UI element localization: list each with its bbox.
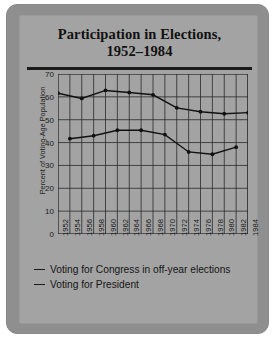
data-point bbox=[80, 97, 84, 101]
x-tick-label: 1972 bbox=[180, 219, 189, 236]
x-tick-label: 1974 bbox=[192, 219, 201, 236]
legend-item-congress: Voting for Congress in off-year election… bbox=[34, 262, 259, 277]
chart-svg bbox=[58, 74, 248, 234]
data-point bbox=[222, 112, 226, 116]
x-tick-label: 1984 bbox=[251, 219, 260, 236]
data-point bbox=[58, 91, 60, 95]
data-point bbox=[151, 93, 155, 97]
legend-item-president: Voting for President bbox=[34, 277, 259, 292]
chart-title: Participation in Elections, 1952–1984 bbox=[20, 26, 259, 60]
data-point bbox=[139, 128, 143, 132]
y-axis-ticks: 706050403020100 bbox=[30, 74, 54, 234]
data-point bbox=[246, 111, 248, 115]
x-tick-label: 1960 bbox=[109, 219, 118, 236]
chart-panel: Participation in Elections, 1952–1984 Pe… bbox=[19, 15, 258, 324]
x-tick-label: 1968 bbox=[156, 219, 165, 236]
y-tick-label: 70 bbox=[32, 70, 54, 79]
data-point bbox=[210, 152, 214, 156]
legend-dash-icon bbox=[34, 284, 45, 285]
y-tick-label: 10 bbox=[32, 207, 54, 216]
chart-legend: Voting for Congress in off-year election… bbox=[34, 262, 259, 292]
plot-area: Percent of Voting-Age Population 7060504… bbox=[20, 74, 259, 259]
x-tick-label: 1978 bbox=[216, 219, 225, 236]
title-divider bbox=[27, 67, 252, 70]
data-point bbox=[175, 106, 179, 110]
x-tick-label: 1954 bbox=[73, 219, 82, 236]
y-tick-label: 60 bbox=[32, 92, 54, 101]
x-tick-label: 1952 bbox=[61, 219, 70, 236]
x-tick-label: 1982 bbox=[239, 219, 248, 236]
x-tick-label: 1956 bbox=[85, 219, 94, 236]
legend-label-congress: Voting for Congress in off-year election… bbox=[50, 264, 230, 275]
data-point bbox=[115, 128, 119, 132]
x-tick-label: 1976 bbox=[204, 219, 213, 236]
y-tick-label: 0 bbox=[32, 230, 54, 239]
data-point bbox=[68, 137, 72, 141]
x-tick-label: 1962 bbox=[121, 219, 130, 236]
x-tick-label: 1980 bbox=[227, 219, 236, 236]
data-point bbox=[234, 145, 238, 149]
x-tick-label: 1958 bbox=[97, 219, 106, 236]
grid-lines bbox=[58, 74, 248, 234]
legend-dash-icon bbox=[34, 269, 45, 270]
x-tick-label: 1966 bbox=[144, 219, 153, 236]
x-tick-label: 1970 bbox=[168, 219, 177, 236]
data-point bbox=[104, 89, 108, 93]
plot-canvas bbox=[58, 74, 248, 234]
data-point bbox=[199, 110, 203, 114]
x-tick-label: 1964 bbox=[132, 219, 141, 236]
chart-title-line1: Participation in Elections, bbox=[58, 26, 221, 42]
y-tick-label: 40 bbox=[32, 138, 54, 147]
data-point bbox=[92, 134, 96, 138]
y-tick-label: 50 bbox=[32, 115, 54, 124]
chart-card-frame: Participation in Elections, 1952–1984 Pe… bbox=[6, 4, 269, 334]
y-tick-label: 20 bbox=[32, 184, 54, 193]
data-point bbox=[187, 150, 191, 154]
data-point bbox=[163, 133, 167, 137]
data-point bbox=[127, 91, 131, 95]
y-tick-label: 30 bbox=[32, 161, 54, 170]
chart-title-line2: 1952–1984 bbox=[20, 43, 259, 60]
legend-label-president: Voting for President bbox=[50, 279, 139, 290]
